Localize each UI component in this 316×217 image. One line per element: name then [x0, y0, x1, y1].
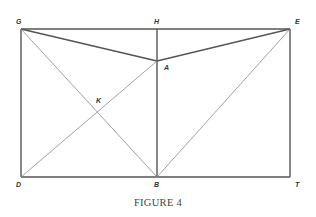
label-T: T [295, 181, 300, 188]
label-H: H [154, 18, 160, 25]
segment-DA [21, 61, 157, 177]
geometry-figure: G H E A K D B T FIGURE 4 [0, 0, 316, 217]
segment-AE [157, 29, 290, 61]
segment-GB [21, 29, 157, 177]
segment-BE [157, 29, 290, 177]
figure-caption: FIGURE 4 [134, 197, 183, 208]
label-E: E [295, 18, 300, 25]
segment-GA [21, 29, 157, 61]
point-labels: G H E A K D B T [16, 18, 300, 188]
label-A: A [163, 64, 169, 71]
figure-segments [21, 29, 290, 177]
label-G: G [16, 18, 22, 25]
label-D: D [16, 181, 21, 188]
label-K: K [96, 97, 102, 104]
label-B: B [154, 181, 159, 188]
